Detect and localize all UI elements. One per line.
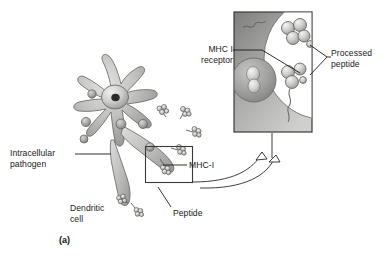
surface-mhc-cluster (157, 105, 169, 118)
intracellular-pathogen (80, 135, 88, 143)
intracellular-pathogen (116, 119, 126, 129)
surface-mhc-cluster (186, 127, 201, 138)
intracellular-pathogen (88, 90, 96, 98)
intracellular-pathogen (138, 119, 147, 128)
figure-panel-a: Intracellular pathogen Dendritic cell Pe… (0, 0, 388, 258)
surface-mhc-cluster (180, 107, 191, 120)
label-dendritic-cell: Dendritic cell (70, 203, 120, 224)
intracellular-pathogen (81, 117, 90, 126)
nucleolus (111, 94, 119, 102)
leader-peptide (158, 187, 171, 207)
label-peptide: Peptide (173, 208, 221, 219)
label-mhc-i-receptor: MHC I receptor (183, 44, 233, 65)
label-mhc-i: MHC-I (189, 160, 229, 171)
surface-mhc-cluster (131, 203, 144, 217)
diagram-canvas (0, 0, 388, 258)
dendritic-cell-illustration (74, 54, 201, 216)
label-processed-peptide: Processed peptide (331, 48, 385, 69)
label-intracellular-pathogen: Intracellular pathogen (10, 148, 72, 169)
panel-letter: (a) (59, 235, 70, 245)
